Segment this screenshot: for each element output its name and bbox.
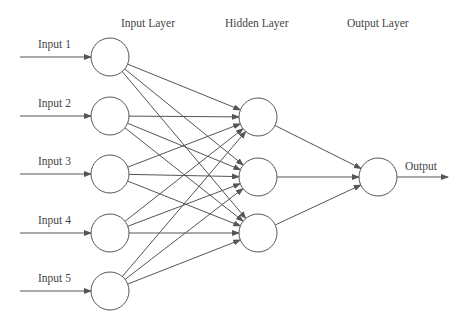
- input-label-1: Input 1: [38, 38, 71, 50]
- input-node-4: [91, 214, 129, 252]
- input-node-1: [91, 38, 129, 76]
- input-node-3: [91, 155, 129, 193]
- edge-in1-h1: [128, 64, 241, 110]
- edge-in5-h2: [125, 189, 243, 280]
- hidden-layer-title: Hidden Layer: [225, 17, 289, 29]
- edge-in5-h3: [128, 240, 241, 284]
- output-node: [359, 158, 397, 196]
- input-node-5: [91, 272, 129, 310]
- input-label-3: Input 3: [38, 155, 71, 167]
- edge-h3-out: [275, 185, 361, 225]
- input-label-4: Input 4: [38, 214, 71, 226]
- edge-in5-h1: [122, 131, 245, 276]
- input-label-5: Input 5: [38, 272, 71, 284]
- edge-in2-h1: [129, 116, 239, 117]
- output-layer-title: Output Layer: [347, 17, 409, 29]
- hidden-node-1: [239, 98, 277, 136]
- hidden-node-2: [239, 158, 277, 196]
- edge-h1-out: [275, 125, 361, 168]
- input-node-2: [91, 97, 129, 135]
- output-label: Output: [405, 160, 437, 172]
- input-layer-title: Input Layer: [121, 17, 175, 29]
- input-label-2: Input 2: [38, 97, 71, 109]
- hidden-node-3: [239, 214, 277, 252]
